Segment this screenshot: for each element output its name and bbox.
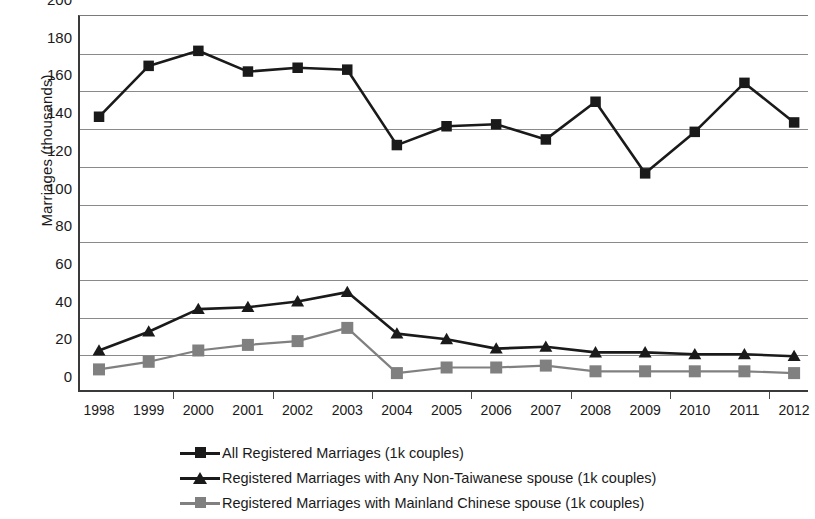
y-axis-tick-label: 140 xyxy=(24,105,72,120)
square-marker xyxy=(195,447,206,458)
x-axis-tick-label: 2000 xyxy=(172,402,224,418)
y-axis-tick-label: 60 xyxy=(24,256,72,271)
x-axis-tick-mark xyxy=(173,392,174,399)
x-axis-tick-mark xyxy=(769,392,770,399)
x-axis-tick-label: 2012 xyxy=(768,402,815,418)
y-axis-tick-label: 200 xyxy=(24,0,72,7)
x-axis-tick-mark xyxy=(273,392,274,399)
y-axis-tick-label: 100 xyxy=(24,181,72,196)
x-axis-tick-label: 2002 xyxy=(272,402,324,418)
gridline xyxy=(80,54,808,55)
y-axis-tick-label: 160 xyxy=(24,67,72,82)
chart-legend: All Registered Marriages (1k couples)Reg… xyxy=(178,440,798,515)
x-axis-tick-label: 2003 xyxy=(321,402,373,418)
plot-area xyxy=(78,15,808,392)
y-axis-tick-label: 120 xyxy=(24,143,72,158)
legend-key xyxy=(178,443,222,463)
x-axis-tick-label: 2010 xyxy=(669,402,721,418)
x-axis-tick-label: 2008 xyxy=(570,402,622,418)
legend-item[interactable]: Registered Marriages with Mainland Chine… xyxy=(178,490,798,515)
y-axis-tick-label: 180 xyxy=(24,30,72,45)
gridline xyxy=(80,167,808,168)
x-axis-tick-label: 2007 xyxy=(520,402,572,418)
x-axis-tick-label: 2004 xyxy=(371,402,423,418)
x-axis-tick-mark xyxy=(670,392,671,399)
x-axis-tick-label: 2001 xyxy=(222,402,274,418)
x-axis-tick-label: 1999 xyxy=(123,402,175,418)
square-marker xyxy=(195,497,206,508)
legend-label: Registered Marriages with Any Non-Taiwan… xyxy=(222,470,656,486)
legend-key xyxy=(178,493,222,513)
gridline xyxy=(80,280,808,281)
y-axis-tick-labels: 200180160140120100806040200 xyxy=(14,0,72,377)
gridline xyxy=(80,129,808,130)
gridline xyxy=(80,242,808,243)
x-axis-tick-label: 2005 xyxy=(421,402,473,418)
x-axis-tick-label: 2009 xyxy=(619,402,671,418)
gridline xyxy=(80,205,808,206)
legend-label: All Registered Marriages (1k couples) xyxy=(222,445,464,461)
y-axis-tick-label: 20 xyxy=(24,331,72,346)
triangle-marker xyxy=(193,472,207,484)
x-axis-tick-label: 1998 xyxy=(73,402,125,418)
y-axis-tick-label: 40 xyxy=(24,294,72,309)
y-axis-tick-label: 0 xyxy=(24,369,72,384)
x-axis-tick-mark xyxy=(471,392,472,399)
x-axis-tick-label: 2006 xyxy=(470,402,522,418)
legend-key xyxy=(178,468,222,488)
legend-item[interactable]: All Registered Marriages (1k couples) xyxy=(178,440,798,465)
legend-label: Registered Marriages with Mainland Chine… xyxy=(222,495,644,511)
gridline xyxy=(80,318,808,319)
gridline xyxy=(80,355,808,356)
legend-item[interactable]: Registered Marriages with Any Non-Taiwan… xyxy=(178,465,798,490)
gridline xyxy=(80,91,808,92)
y-axis-tick-label: 80 xyxy=(24,218,72,233)
x-axis-tick-mark xyxy=(571,392,572,399)
x-axis-tick-mark xyxy=(372,392,373,399)
x-axis-tick-label: 2011 xyxy=(718,402,770,418)
line-chart-figure: Marriages (thousands) 200180160140120100… xyxy=(0,0,815,519)
